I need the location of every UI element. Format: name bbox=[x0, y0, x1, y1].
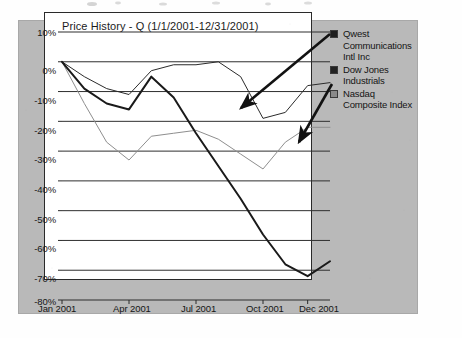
gridlines bbox=[62, 32, 330, 300]
x-axis-ticks bbox=[62, 300, 308, 304]
data-series-line bbox=[62, 62, 330, 169]
y-axis-ticks bbox=[58, 32, 62, 300]
plot-overlay bbox=[0, 0, 462, 338]
arrow-to-nasdaq-line bbox=[299, 84, 332, 142]
data-series-line bbox=[62, 62, 330, 119]
data-series-layer bbox=[62, 62, 330, 276]
chart-figure: Price History - Q (1/1/2001-12/31/2001) … bbox=[0, 0, 462, 338]
arrow-to-dow-jones-line bbox=[241, 34, 330, 108]
data-series-line bbox=[62, 62, 330, 276]
